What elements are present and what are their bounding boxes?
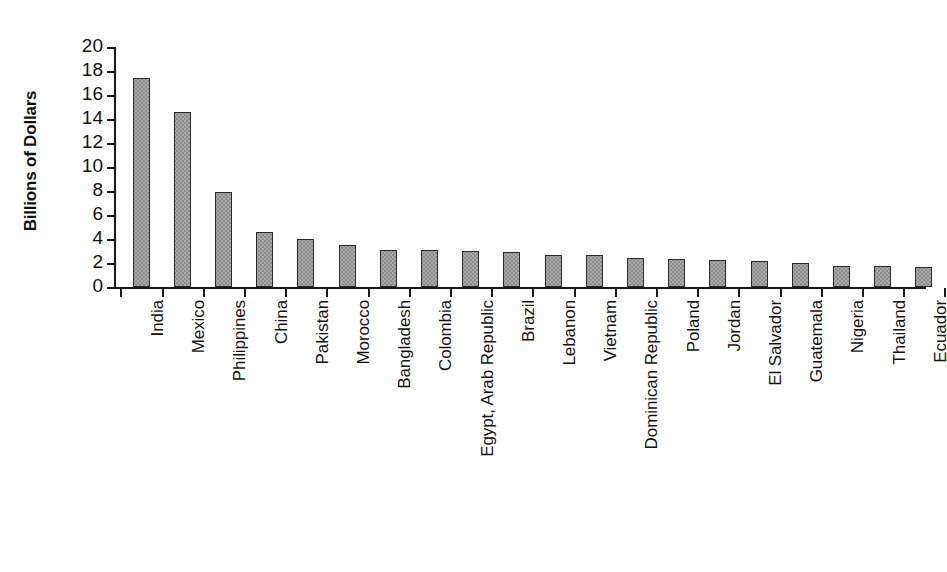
- y-axis-tick: 14: [107, 119, 114, 121]
- y-axis-tick-label: 20: [73, 36, 103, 56]
- y-axis-tick-label: 0: [73, 276, 103, 296]
- x-axis-tick: [780, 288, 782, 297]
- x-axis-tick: [615, 288, 617, 297]
- x-axis-label-group: IndiaMexicoPhilippinesChinaPakistanMoroc…: [114, 300, 934, 530]
- x-axis-line: [114, 287, 926, 289]
- bar: [874, 266, 891, 287]
- x-axis-tick: [368, 288, 370, 297]
- bar: [380, 250, 397, 287]
- bar: [709, 260, 726, 287]
- y-axis-tick-label: 6: [73, 204, 103, 224]
- bar: [915, 267, 932, 287]
- bar: [339, 245, 356, 287]
- bar: [256, 232, 273, 287]
- bar: [668, 259, 685, 287]
- bar: [792, 263, 809, 287]
- y-axis-tick: 4: [107, 239, 114, 241]
- x-axis-tick: [285, 288, 287, 297]
- y-axis-tick: 18: [107, 71, 114, 73]
- y-axis-tick: 2: [107, 263, 114, 265]
- bar: [174, 112, 191, 287]
- x-axis-category-label: Nigeria: [848, 300, 868, 530]
- x-axis-category-label: Dominican Republic: [642, 300, 662, 530]
- x-axis-category-label: Egypt, Arab Republic: [478, 300, 498, 530]
- x-axis-category-label: Pakistan: [313, 300, 333, 530]
- x-axis-tick: [409, 288, 411, 297]
- x-axis-tick: [532, 288, 534, 297]
- plot-area: 02468101214161820: [114, 47, 924, 287]
- bar: [503, 252, 520, 287]
- x-axis-category-label: Mexico: [189, 300, 209, 530]
- y-axis-tick-label: 8: [73, 180, 103, 200]
- x-axis-tick: [244, 288, 246, 297]
- bar: [751, 261, 768, 287]
- x-axis-tick: [120, 288, 122, 297]
- x-axis-tick: [656, 288, 658, 297]
- x-axis-category-label: Jordan: [725, 300, 745, 530]
- x-axis-category-label: Morocco: [354, 300, 374, 530]
- bar: [627, 258, 644, 287]
- y-axis-tick-label: 2: [73, 252, 103, 272]
- y-axis-tick: 16: [107, 95, 114, 97]
- y-axis-tick-label: 12: [73, 132, 103, 152]
- bar: [133, 78, 150, 287]
- x-axis-tick: [491, 288, 493, 297]
- x-axis-category-label: China: [272, 300, 292, 530]
- y-axis-tick: 8: [107, 191, 114, 193]
- y-axis-tick-label: 18: [73, 60, 103, 80]
- x-axis-category-label: Bangladesh: [395, 300, 415, 530]
- y-axis-tick: 0: [107, 287, 114, 289]
- x-axis-tick: [944, 288, 946, 297]
- x-axis-tick: [903, 288, 905, 297]
- bar: [462, 251, 479, 287]
- bar: [421, 250, 438, 287]
- y-axis-tick: 6: [107, 215, 114, 217]
- x-axis-tick: [203, 288, 205, 297]
- bar: [833, 266, 850, 287]
- y-axis-tick-label: 14: [73, 108, 103, 128]
- y-axis-tick: 20: [107, 47, 114, 49]
- bar: [215, 192, 232, 287]
- x-axis-tick: [738, 288, 740, 297]
- x-axis-category-label: Thailand: [890, 300, 910, 530]
- x-axis-category-label: El Salvador: [766, 300, 786, 530]
- y-axis-tick: 10: [107, 167, 114, 169]
- x-axis-tick: [862, 288, 864, 297]
- x-axis-tick: [574, 288, 576, 297]
- x-axis-tick: [450, 288, 452, 297]
- bar: [545, 255, 562, 287]
- bar: [297, 239, 314, 287]
- x-axis-category-label: Guatemala: [807, 300, 827, 530]
- y-axis-tick-label: 10: [73, 156, 103, 176]
- x-axis-category-label: Colombia: [436, 300, 456, 530]
- x-axis-category-label: Vietnam: [601, 300, 621, 530]
- x-axis-tick: [697, 288, 699, 297]
- x-axis-category-label: Poland: [684, 300, 704, 530]
- y-axis-tick-label: 4: [73, 228, 103, 248]
- y-axis-line: [114, 47, 116, 288]
- x-axis-tick: [821, 288, 823, 297]
- x-axis-category-label: Philippines: [230, 300, 250, 530]
- y-axis-tick-label: 16: [73, 84, 103, 104]
- x-axis-tick: [162, 288, 164, 297]
- x-axis-category-label: Lebanon: [560, 300, 580, 530]
- y-axis-title: Billions of Dollars: [18, 36, 44, 286]
- x-axis-tick: [326, 288, 328, 297]
- x-axis-category-label: Brazil: [519, 300, 539, 530]
- x-axis-category-label: India: [148, 300, 168, 530]
- remittances-bar-chart: Billions of Dollars 02468101214161820 In…: [0, 0, 947, 572]
- bar: [586, 255, 603, 287]
- y-axis-tick: 12: [107, 143, 114, 145]
- x-axis-category-label: Ecuador: [931, 300, 947, 530]
